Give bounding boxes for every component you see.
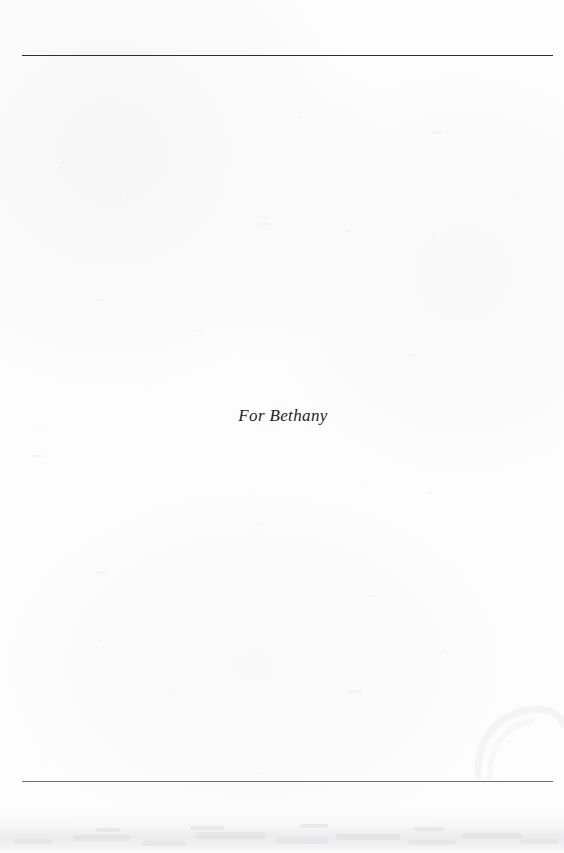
top-rule [22,55,553,56]
dedication-block: For Bethany [0,406,564,426]
bottom-rule [22,781,553,782]
dedication-text: For Bethany [238,406,327,426]
paper-tint-overlay [0,0,564,853]
bottom-scan-shadow [0,811,564,853]
scan-edge-smudge [470,690,564,785]
bottom-scan-shadow-noise [0,817,564,853]
dedication-page: For Bethany [0,0,564,853]
scan-speckles [0,0,564,853]
